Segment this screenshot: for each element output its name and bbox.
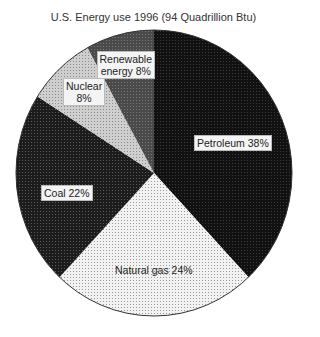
slice-label-renewable-energy: Renewableenergy 8% bbox=[97, 51, 156, 79]
slice-label-natural-gas: Natural gas 24% bbox=[115, 264, 193, 276]
slice-label-petroleum: Petroleum 38% bbox=[194, 135, 272, 151]
slice-label-nuclear: Nuclear8% bbox=[63, 78, 105, 106]
slice-label-coal: Coal 22% bbox=[41, 185, 93, 201]
